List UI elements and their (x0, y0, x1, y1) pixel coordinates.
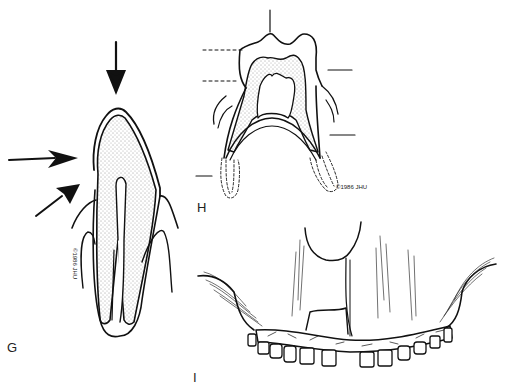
oblique-force-arrow-icon (36, 184, 80, 216)
copyright-text-g: ©1986 JHU (72, 248, 78, 279)
panel-g-tooth (9, 42, 178, 337)
copyright-text-h: ©1986 JHU (336, 184, 367, 190)
dental-illustration (0, 0, 505, 392)
panel-i-maxilla (198, 222, 496, 367)
panel-h-molar (196, 10, 355, 198)
vertical-force-arrow-icon (106, 42, 126, 95)
panel-label-h: H (197, 200, 206, 215)
panel-label-g: G (7, 340, 17, 355)
panel-label-i: I (193, 370, 197, 385)
horizontal-force-arrow-icon (9, 150, 78, 168)
